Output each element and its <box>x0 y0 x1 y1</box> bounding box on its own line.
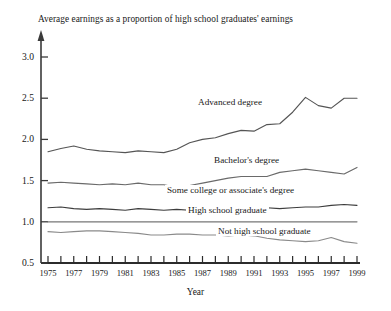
series-label-0: Advanced degree <box>196 97 264 107</box>
plot-area <box>0 0 391 311</box>
y-axis-tick-label: 2.0 <box>8 133 34 144</box>
chart-figure: Average earnings as a proportion of high… <box>0 0 391 311</box>
y-axis-tick-label: 0.5 <box>8 257 34 268</box>
y-axis-tick-label: 3.0 <box>8 51 34 62</box>
x-axis-tick-label: 1999 <box>342 268 372 278</box>
x-axis-title: Year <box>0 287 391 297</box>
y-axis-tick-label: 2.5 <box>8 92 34 103</box>
series-label-1: Bachelor's degree <box>212 155 281 165</box>
series-label-3: High school graduate <box>186 205 269 215</box>
series-lines <box>48 97 357 243</box>
series-label-2: Some college or associate's degree <box>165 185 296 195</box>
y-axis-tick-label: 1.0 <box>8 216 34 227</box>
series-label-4: Not high school graduate <box>216 226 313 236</box>
y-axis-arrow-icon <box>38 30 45 41</box>
y-axis-tick-label: 1.5 <box>8 175 34 186</box>
